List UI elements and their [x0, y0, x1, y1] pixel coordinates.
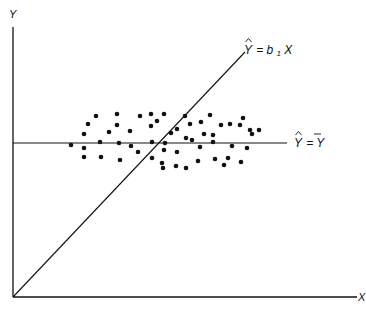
scatter-point: [136, 150, 141, 155]
subscript-1: 1: [277, 49, 281, 58]
scatter-point: [241, 116, 246, 121]
scatter-point: [238, 123, 243, 128]
scatter-point: [138, 114, 143, 119]
scatter-point: [149, 112, 154, 117]
scatter-point: [213, 157, 218, 162]
scatter-point: [149, 124, 154, 129]
scatter-points: [69, 112, 262, 171]
scatter-point: [82, 146, 87, 151]
scatter-point: [175, 150, 180, 155]
scatter-point: [219, 123, 224, 128]
scatter-point: [184, 136, 189, 141]
scatter-point: [163, 141, 168, 146]
scatter-point: [174, 164, 179, 169]
scatter-point: [82, 155, 87, 160]
equals-b: = b: [256, 43, 273, 57]
scatter-point: [175, 127, 180, 132]
equals: =: [306, 136, 316, 150]
scatter-point: [226, 156, 231, 161]
scatter-point: [196, 159, 201, 164]
scatter-point: [188, 122, 193, 127]
scatter-point: [129, 144, 134, 149]
scatter-point: [150, 156, 155, 161]
scatter-point: [257, 128, 262, 133]
scatter-point: [162, 112, 167, 117]
scatter-point: [107, 130, 112, 135]
scatter-point: [222, 163, 227, 168]
svg-text:Y = Y: Y = Y: [294, 136, 325, 150]
y-hat-symbol: Y: [294, 136, 303, 150]
scatter-point: [98, 140, 103, 145]
regression-line-label: Y = b 1 X: [244, 39, 293, 60]
scatter-point: [230, 144, 235, 149]
scatter-point: [162, 148, 167, 153]
scatter-point: [211, 140, 216, 145]
hat-icon: [246, 39, 252, 43]
scatter-point: [183, 114, 188, 119]
scatter-point: [115, 123, 120, 128]
scatter-point: [99, 155, 104, 160]
scatter-point: [169, 131, 174, 136]
scatter-point: [150, 140, 155, 145]
regression-diagram: Y X Y = b 1 X Y = Y: [0, 0, 366, 323]
scatter-point: [86, 122, 91, 127]
mean-line-label: Y = Y: [294, 132, 325, 151]
x-variable: X: [283, 43, 293, 57]
scatter-point: [202, 132, 207, 137]
scatter-point: [248, 128, 253, 133]
scatter-point: [198, 145, 203, 150]
scatter-point: [199, 120, 204, 125]
scatter-point: [250, 132, 255, 137]
svg-text:Y = b 1 X: Y = b 1 X: [244, 43, 293, 59]
y-axis-label: Y: [9, 8, 17, 20]
scatter-point: [117, 141, 122, 146]
scatter-point: [228, 122, 233, 127]
scatter-point: [94, 114, 99, 119]
scatter-point: [211, 133, 216, 138]
scatter-point: [155, 119, 160, 124]
y-hat-symbol: Y: [244, 43, 253, 57]
scatter-point: [208, 113, 213, 118]
scatter-point: [184, 166, 189, 171]
y-bar-symbol: Y: [316, 136, 325, 150]
scatter-point: [239, 160, 244, 165]
scatter-point: [118, 158, 123, 163]
scatter-point: [82, 132, 87, 137]
scatter-point: [115, 112, 120, 117]
scatter-point: [160, 161, 165, 166]
scatter-point: [245, 146, 250, 151]
scatter-point: [128, 129, 133, 134]
hat-icon: [296, 132, 302, 136]
scatter-point: [69, 143, 74, 148]
scatter-point: [190, 138, 195, 143]
x-axis-label: X: [357, 291, 366, 303]
scatter-point: [161, 166, 166, 171]
regression-line-through-origin: [13, 52, 245, 297]
